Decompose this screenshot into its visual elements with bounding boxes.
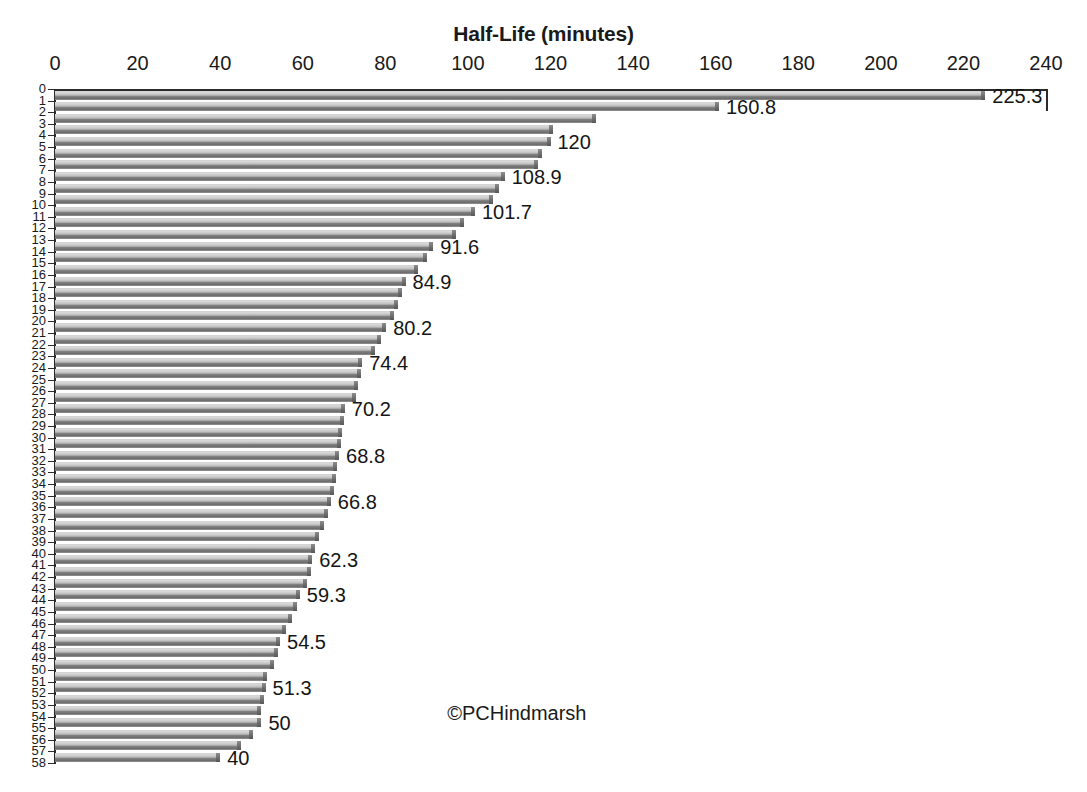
- bar-row[interactable]: [55, 462, 337, 471]
- bar-row[interactable]: [55, 311, 394, 320]
- bar[interactable]: [55, 114, 596, 123]
- bar-row[interactable]: [55, 207, 475, 216]
- bar-row[interactable]: [55, 335, 381, 344]
- bar-row[interactable]: [55, 521, 324, 530]
- bar[interactable]: [55, 567, 311, 576]
- bar-row[interactable]: [55, 323, 386, 332]
- bar[interactable]: [55, 102, 719, 111]
- bar[interactable]: [55, 648, 278, 657]
- bar-row[interactable]: [55, 532, 319, 541]
- bar-row[interactable]: [55, 114, 596, 123]
- bar[interactable]: [55, 497, 331, 506]
- bar[interactable]: [55, 195, 493, 204]
- bar-row[interactable]: [55, 300, 398, 309]
- bar-row[interactable]: [55, 741, 241, 750]
- bar-row[interactable]: [55, 625, 286, 634]
- bar-row[interactable]: [55, 184, 499, 193]
- bar[interactable]: [55, 91, 985, 100]
- bar-row[interactable]: [55, 730, 253, 739]
- bar-row[interactable]: [55, 672, 267, 681]
- bar[interactable]: [55, 602, 297, 611]
- bar[interactable]: [55, 184, 499, 193]
- bar-row[interactable]: [55, 369, 361, 378]
- bar[interactable]: [55, 532, 319, 541]
- bar[interactable]: [55, 137, 551, 146]
- bar[interactable]: [55, 474, 336, 483]
- bar[interactable]: [55, 265, 418, 274]
- bar-row[interactable]: [55, 288, 402, 297]
- bar-row[interactable]: [55, 486, 334, 495]
- bar[interactable]: [55, 277, 406, 286]
- bar[interactable]: [55, 625, 286, 634]
- bar[interactable]: [55, 509, 328, 518]
- bar-row[interactable]: [55, 195, 493, 204]
- bar[interactable]: [55, 230, 456, 239]
- bar-row[interactable]: [55, 695, 264, 704]
- bar-row[interactable]: [55, 253, 427, 262]
- bar[interactable]: [55, 346, 375, 355]
- bar-row[interactable]: [55, 509, 328, 518]
- bar[interactable]: [55, 637, 280, 646]
- bar-row[interactable]: [55, 614, 292, 623]
- bar[interactable]: [55, 125, 553, 134]
- bar[interactable]: [55, 683, 266, 692]
- bar[interactable]: [55, 753, 220, 762]
- bar[interactable]: [55, 741, 241, 750]
- bar[interactable]: [55, 311, 394, 320]
- bar-row[interactable]: [55, 590, 300, 599]
- bar-row[interactable]: [55, 706, 261, 715]
- bar-row[interactable]: [55, 451, 339, 460]
- bar-row[interactable]: [55, 579, 307, 588]
- bar[interactable]: [55, 614, 292, 623]
- bar[interactable]: [55, 695, 264, 704]
- bar-row[interactable]: [55, 544, 315, 553]
- bar-row[interactable]: [55, 428, 342, 437]
- bar[interactable]: [55, 590, 300, 599]
- bar[interactable]: [55, 335, 381, 344]
- bar-row[interactable]: [55, 497, 331, 506]
- bar-row[interactable]: [55, 637, 280, 646]
- bar[interactable]: [55, 439, 341, 448]
- bar[interactable]: [55, 253, 427, 262]
- bar[interactable]: [55, 730, 253, 739]
- bar[interactable]: [55, 172, 505, 181]
- bar-row[interactable]: [55, 137, 551, 146]
- bar[interactable]: [55, 393, 356, 402]
- bar[interactable]: [55, 323, 386, 332]
- bar-row[interactable]: [55, 346, 375, 355]
- bar[interactable]: [55, 544, 315, 553]
- bar[interactable]: [55, 706, 261, 715]
- bar[interactable]: [55, 300, 398, 309]
- bar-row[interactable]: [55, 381, 358, 390]
- bar[interactable]: [55, 288, 402, 297]
- bar-row[interactable]: [55, 660, 274, 669]
- bar[interactable]: [55, 718, 261, 727]
- bar[interactable]: [55, 555, 312, 564]
- bar[interactable]: [55, 358, 362, 367]
- bar-row[interactable]: [55, 718, 261, 727]
- bar[interactable]: [55, 416, 344, 425]
- bar[interactable]: [55, 404, 345, 413]
- bar-row[interactable]: [55, 230, 456, 239]
- bar[interactable]: [55, 672, 267, 681]
- bar-row[interactable]: [55, 393, 356, 402]
- bar-row[interactable]: [55, 102, 719, 111]
- bar-row[interactable]: [55, 648, 278, 657]
- bar[interactable]: [55, 149, 542, 158]
- bar-row[interactable]: [55, 242, 433, 251]
- bar[interactable]: [55, 451, 339, 460]
- bar-row[interactable]: [55, 404, 345, 413]
- bar[interactable]: [55, 660, 274, 669]
- bar-row[interactable]: [55, 602, 297, 611]
- bar-row[interactable]: [55, 555, 312, 564]
- bar[interactable]: [55, 381, 358, 390]
- bar-row[interactable]: [55, 753, 220, 762]
- bar[interactable]: [55, 462, 337, 471]
- bar-row[interactable]: [55, 277, 406, 286]
- bar-row[interactable]: [55, 474, 336, 483]
- bar-row[interactable]: [55, 125, 553, 134]
- bar[interactable]: [55, 428, 342, 437]
- bar[interactable]: [55, 242, 433, 251]
- bar-row[interactable]: [55, 265, 418, 274]
- bar[interactable]: [55, 579, 307, 588]
